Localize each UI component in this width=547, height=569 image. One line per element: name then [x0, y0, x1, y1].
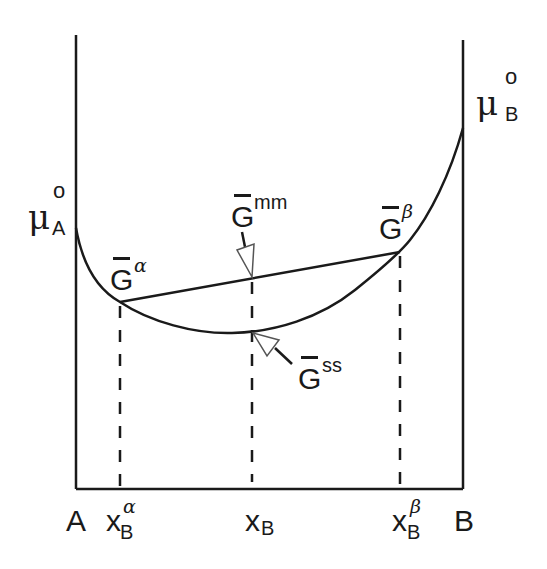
x-b-label: x — [245, 506, 260, 536]
free-energy-curve — [76, 128, 463, 333]
g-mm-sup: mm — [254, 192, 287, 212]
g-mm-label: G — [231, 202, 254, 232]
mu-a-sup: o — [53, 180, 65, 202]
mu-b-sub: B — [505, 104, 518, 124]
mu-a-label: μ — [28, 200, 50, 234]
diagram-canvas — [0, 0, 547, 569]
x-alpha-sub: B — [120, 522, 133, 542]
g-beta-sup: β — [402, 202, 413, 221]
x-alpha-sup: α — [123, 497, 136, 516]
axis-label-b: B — [454, 506, 474, 536]
mu-a-sub: A — [52, 218, 65, 238]
free-energy-diagram: μ o A μ o B G α G β G mm G ss A B x B α … — [0, 0, 547, 569]
g-ss-label: G — [298, 364, 321, 394]
g-ss-arrow-head — [253, 333, 279, 356]
x-b-sub: B — [261, 518, 274, 538]
g-ss-sup: ss — [322, 355, 342, 375]
common-tangent-line — [120, 252, 400, 302]
g-ss-arrow-shaft — [275, 348, 292, 364]
x-alpha-label: x — [106, 506, 121, 536]
mu-b-label: μ — [476, 86, 498, 120]
g-mm-arrow-shaft — [242, 232, 245, 247]
x-beta-sub: B — [407, 522, 420, 542]
axis-label-a: A — [66, 506, 86, 536]
mu-b-sup: o — [505, 66, 517, 88]
g-mm-arrow-head — [237, 244, 254, 277]
g-alpha-label: G — [110, 265, 133, 295]
g-beta-label: G — [379, 214, 402, 244]
x-beta-label: x — [392, 506, 407, 536]
x-beta-sup: β — [410, 497, 421, 516]
g-alpha-sup: α — [134, 256, 147, 275]
